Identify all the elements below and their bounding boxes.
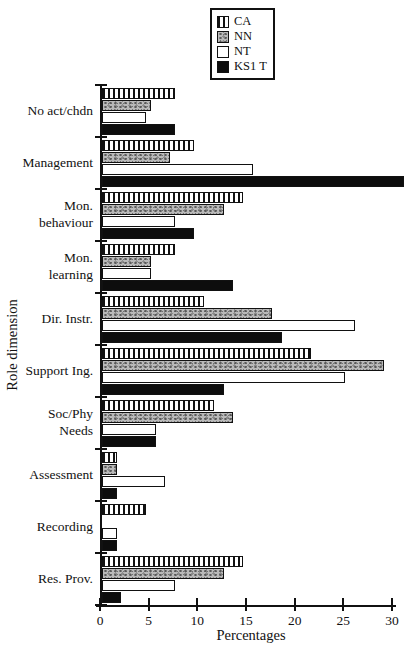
bar-ca-dir-instr — [102, 296, 204, 307]
bar-ks1-t-management — [102, 176, 404, 187]
x-axis-tick — [196, 598, 198, 611]
bar-nn-assessment — [102, 464, 117, 475]
bar-nt-res-prov — [102, 580, 175, 591]
bar-nn-no-act-chdn — [102, 100, 151, 111]
bar-ca-mon-learning — [102, 244, 175, 255]
bar-ks1-t-res-prov — [102, 592, 121, 603]
bar-ca-mon-behaviour — [102, 192, 243, 203]
y-axis-tick — [95, 344, 107, 346]
category-label-res-prov: Res. Prov. — [0, 553, 93, 605]
x-tick-label-0: 0 — [86, 613, 114, 629]
bar-ca-management — [102, 140, 194, 151]
bar-nn-soc-phy-needs — [102, 412, 233, 423]
bar-nn-management — [102, 152, 170, 163]
bar-ks1-t-recording — [102, 540, 117, 551]
bar-nt-mon-learning — [102, 268, 151, 279]
role-dimension-bar-chart: CANNNTKS1 T 051015202530No act/chdnManag… — [0, 0, 413, 654]
bar-ks1-t-assessment — [102, 488, 117, 499]
bar-nn-dir-instr — [102, 308, 272, 319]
bar-nt-no-act-chdn — [102, 112, 146, 123]
x-axis-tick — [391, 598, 393, 611]
bar-nt-management — [102, 164, 253, 175]
bar-ca-no-act-chdn — [102, 88, 175, 99]
category-label-mon-behaviour: Mon. behaviour — [0, 189, 93, 241]
category-label-mon-learning: Mon. learning — [0, 241, 93, 293]
bar-ks1-t-dir-instr — [102, 332, 282, 343]
bar-ca-res-prov — [102, 556, 243, 567]
y-axis-tick — [95, 552, 107, 554]
bar-nt-support-ing — [102, 372, 345, 383]
bar-nn-support-ing — [102, 360, 384, 371]
bar-ks1-t-support-ing — [102, 384, 224, 395]
bar-nn-res-prov — [102, 568, 224, 579]
bar-nt-assessment — [102, 476, 165, 487]
y-axis-tick — [95, 188, 107, 190]
plot-area: 051015202530No act/chdnManagementMon. be… — [0, 0, 413, 654]
category-label-no-act-chdn: No act/chdn — [0, 85, 93, 137]
x-tick-label-30: 30 — [378, 613, 406, 629]
y-axis-tick — [95, 500, 107, 502]
bar-nt-dir-instr — [102, 320, 355, 331]
bar-ca-recording — [102, 504, 146, 515]
bar-ca-assessment — [102, 452, 117, 463]
x-axis-tick — [294, 598, 296, 611]
bar-ca-soc-phy-needs — [102, 400, 214, 411]
bar-ks1-t-mon-behaviour — [102, 228, 194, 239]
x-axis-tick — [245, 598, 247, 611]
x-axis-tick — [342, 598, 344, 611]
bar-ks1-t-soc-phy-needs — [102, 436, 156, 447]
y-axis-tick — [95, 292, 107, 294]
y-axis-tick — [95, 84, 107, 86]
category-label-assessment: Assessment — [0, 449, 93, 501]
bar-ks1-t-mon-learning — [102, 280, 233, 291]
category-label-recording: Recording — [0, 501, 93, 553]
bar-ks1-t-no-act-chdn — [102, 124, 175, 135]
x-tick-label-5: 5 — [135, 613, 163, 629]
category-label-soc-phy-needs: Soc/Phy Needs — [0, 397, 93, 449]
category-label-management: Management — [0, 137, 93, 189]
bar-nt-recording — [102, 528, 117, 539]
bar-ca-support-ing — [102, 348, 311, 359]
y-axis-tick — [95, 396, 107, 398]
bar-nn-mon-learning — [102, 256, 151, 267]
bar-nt-soc-phy-needs — [102, 424, 156, 435]
y-axis-tick — [95, 136, 107, 138]
bar-nt-mon-behaviour — [102, 216, 175, 227]
y-axis-tick — [95, 240, 107, 242]
x-axis-tick — [99, 598, 101, 611]
x-axis-tick — [148, 598, 150, 611]
bar-nn-mon-behaviour — [102, 204, 224, 215]
x-axis-label: Percentages — [166, 627, 336, 644]
y-axis-tick — [95, 448, 107, 450]
y-axis-label: Role dimension — [4, 299, 21, 390]
